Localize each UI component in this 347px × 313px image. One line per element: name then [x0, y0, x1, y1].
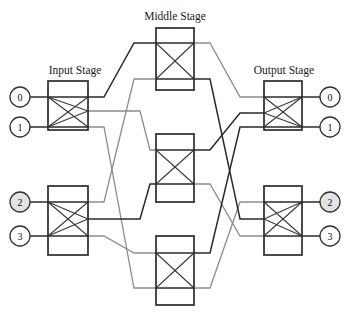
terminal-right-0[interactable]: 0 — [320, 87, 340, 107]
terminal-left-1[interactable]: 1 — [10, 117, 30, 137]
port-label-left-3: 3 — [18, 231, 23, 242]
diagram-canvas: Input Stage Middle Stage Output Stage — [0, 0, 347, 313]
switch-middle-2[interactable] — [156, 236, 194, 305]
port-label-left-2: 2 — [18, 197, 23, 208]
clos-network-diagram: Input Stage Middle Stage Output Stage — [0, 0, 347, 313]
terminal-right-2[interactable]: 2 — [320, 192, 340, 212]
switch-output-1[interactable] — [264, 186, 302, 255]
switch-box-in-1[interactable] — [48, 186, 88, 255]
switch-input-1[interactable] — [48, 186, 88, 255]
switch-box-mid-1[interactable] — [156, 134, 194, 202]
right-terminals: 0 1 2 3 — [320, 87, 340, 246]
input-stage-title: Input Stage — [49, 64, 102, 77]
terminal-right-3[interactable]: 3 — [320, 226, 340, 246]
switch-input-0[interactable] — [48, 81, 88, 130]
link-in1-mid2 — [88, 236, 156, 253]
input-stage-group — [48, 81, 88, 255]
port-label-left-0: 0 — [18, 92, 23, 103]
switch-box-out-1[interactable] — [264, 186, 302, 255]
terminal-left-0[interactable]: 0 — [10, 87, 30, 107]
link-mid1-out0 — [194, 113, 264, 150]
terminal-left-3[interactable]: 3 — [10, 226, 30, 246]
middle-stage-title: Middle Stage — [144, 10, 206, 23]
switch-output-0[interactable] — [264, 81, 302, 130]
link-mid2-out1 — [194, 202, 264, 288]
port-label-right-3: 3 — [328, 231, 333, 242]
port-label-left-1: 1 — [18, 122, 23, 133]
port-label-right-2: 2 — [328, 197, 333, 208]
link-in0-mid2 — [88, 127, 156, 288]
terminal-left-2[interactable]: 2 — [10, 192, 30, 212]
link-mid0-out1 — [194, 79, 264, 219]
switch-box-mid-0[interactable] — [156, 28, 194, 90]
switch-middle-1[interactable] — [156, 134, 194, 202]
output-stage-group — [264, 81, 302, 255]
middle-stage-group — [156, 28, 194, 305]
terminal-right-1[interactable]: 1 — [320, 117, 340, 137]
left-terminals: 0 1 2 3 — [10, 87, 30, 246]
port-label-right-1: 1 — [328, 122, 333, 133]
link-mid1-out1 — [194, 184, 264, 236]
port-label-right-0: 0 — [328, 92, 333, 103]
output-stage-title: Output Stage — [254, 64, 314, 77]
switch-middle-0[interactable] — [156, 28, 194, 90]
